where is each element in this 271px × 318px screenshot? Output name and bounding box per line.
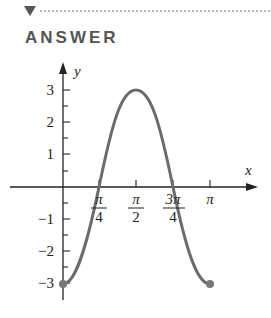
- svg-text:π: π: [95, 191, 103, 207]
- chart: y x 3 2 1 −1 −2 −3 π 4 π 2 3π 4 π: [0, 0, 271, 318]
- y-axis-arrow-icon: [59, 62, 67, 74]
- svg-text:2: 2: [132, 209, 140, 225]
- y-axis-label: y: [72, 63, 81, 79]
- svg-text:1: 1: [47, 146, 55, 162]
- svg-text:π: π: [132, 191, 140, 207]
- x-tick-labels: π 4 π 2 3π 4 π: [91, 191, 214, 225]
- endpoint-end: [206, 280, 214, 288]
- x-axis-label: x: [244, 162, 252, 178]
- endpoint-start: [59, 280, 67, 288]
- svg-text:π: π: [206, 191, 214, 207]
- svg-text:−2: −2: [38, 243, 54, 259]
- svg-text:−1: −1: [38, 211, 54, 227]
- x-ticks: [99, 180, 210, 187]
- svg-text:3π: 3π: [164, 191, 181, 207]
- svg-text:2: 2: [47, 114, 55, 130]
- x-axis-arrow-icon: [246, 183, 258, 191]
- svg-text:−3: −3: [38, 275, 54, 291]
- svg-text:4: 4: [169, 209, 177, 225]
- svg-text:3: 3: [47, 82, 55, 98]
- svg-text:4: 4: [95, 209, 103, 225]
